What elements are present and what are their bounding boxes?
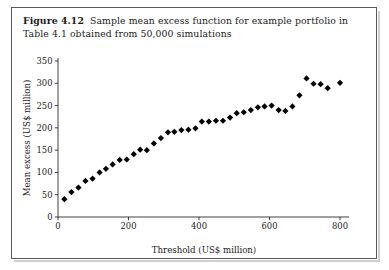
data-point-marker: [171, 129, 177, 135]
data-point-marker: [310, 81, 316, 87]
scatter-chart-svg: 050100150200250300350 0200400600800 Thre…: [0, 0, 389, 270]
y-tick-label: 100: [37, 167, 53, 177]
data-point-marker: [255, 104, 261, 110]
data-point-marker: [220, 118, 226, 124]
data-point-marker: [325, 85, 331, 91]
y-tick-label: 0: [47, 212, 52, 222]
x-tick-label: 600: [262, 221, 278, 231]
y-tick-label: 250: [37, 101, 53, 111]
data-point-marker: [206, 119, 212, 125]
x-axis-title: Threshold (US$ million): [152, 245, 256, 255]
x-tick-label: 200: [121, 221, 137, 231]
y-tick-label: 300: [37, 78, 53, 88]
data-point-marker: [296, 92, 302, 98]
data-point-marker: [248, 107, 254, 113]
data-point-marker: [269, 102, 275, 108]
data-point-marker: [158, 135, 164, 141]
x-axis-ticks: [58, 217, 340, 220]
data-point-marker: [82, 178, 88, 184]
y-tick-label: 200: [37, 123, 53, 133]
data-point-markers: [61, 75, 343, 202]
y-tick-label: 50: [42, 190, 53, 200]
data-point-marker: [144, 147, 150, 153]
y-axis-title: Mean excess (US$ million): [22, 80, 32, 197]
data-point-marker: [75, 184, 81, 190]
data-point-marker: [137, 147, 143, 153]
x-tick-label: 0: [55, 221, 60, 231]
data-point-marker: [165, 129, 171, 135]
y-axis-ticks: [55, 61, 58, 217]
data-point-marker: [337, 80, 343, 86]
data-point-marker: [241, 109, 247, 115]
data-point-marker: [110, 161, 116, 167]
x-tick-label: 800: [332, 221, 348, 231]
data-point-marker: [61, 196, 67, 202]
data-point-marker: [89, 176, 95, 182]
x-tick-label: 400: [191, 221, 207, 231]
data-point-marker: [117, 157, 123, 163]
data-point-marker: [213, 118, 219, 124]
data-point-marker: [318, 81, 324, 87]
data-point-marker: [131, 151, 137, 157]
data-point-marker: [261, 103, 267, 109]
y-tick-label: 150: [37, 145, 53, 155]
data-point-marker: [303, 75, 309, 81]
data-point-marker: [68, 189, 74, 195]
data-point-marker: [124, 156, 130, 162]
x-axis-tick-labels: 0200400600800: [55, 221, 348, 231]
data-point-marker: [234, 110, 240, 116]
data-point-marker: [185, 127, 191, 133]
data-point-marker: [227, 115, 233, 121]
data-point-marker: [151, 140, 157, 146]
y-tick-label: 350: [37, 56, 53, 66]
data-point-marker: [289, 103, 295, 109]
data-point-marker: [97, 169, 103, 175]
chart-plot-area: 050100150200250300350 0200400600800 Thre…: [0, 0, 389, 270]
data-point-marker: [199, 119, 205, 125]
figure-root: Figure 4.12 Sample mean excess function …: [0, 0, 389, 270]
data-point-marker: [178, 127, 184, 133]
data-point-marker: [192, 125, 198, 131]
data-point-marker: [103, 166, 109, 172]
data-point-marker: [276, 107, 282, 113]
data-point-marker: [282, 108, 288, 114]
y-axis-tick-labels: 050100150200250300350: [37, 56, 53, 222]
